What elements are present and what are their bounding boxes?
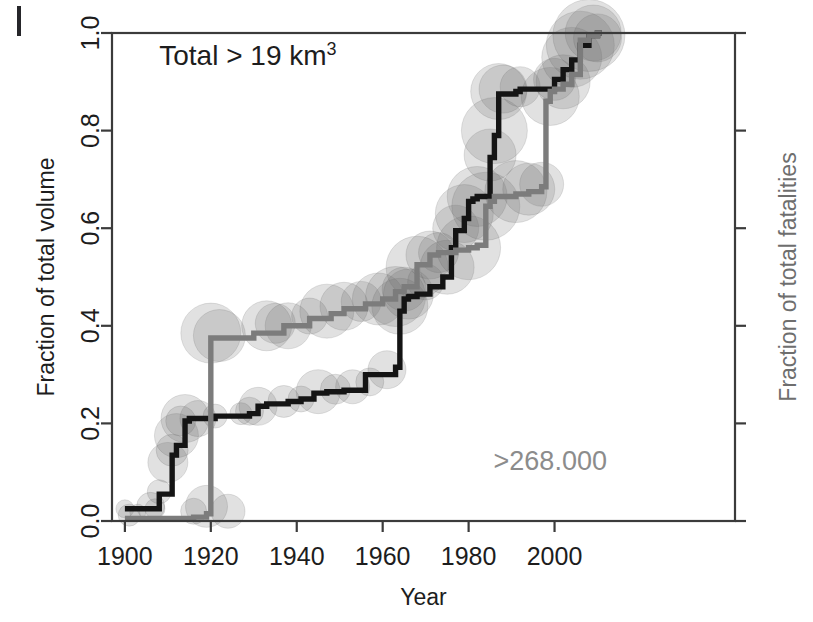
x-tick-label: 1900 [97,542,153,570]
total-volume-annotation-text: Total > 19 km [159,40,326,71]
y-axis-title-right: Fraction of total fatalities [775,152,801,401]
x-tick-label: 1940 [269,542,325,570]
y-tick-label: 0.6 [76,211,104,246]
x-tick-label: 1980 [441,542,497,570]
y-tick-label: 0.2 [76,406,104,441]
y-tick-label: 0.0 [76,504,104,539]
x-tick-label: 1960 [355,542,411,570]
scan-artifact-mark [17,6,21,36]
total-volume-annotation-superscript: 3 [327,39,337,59]
y-tick-label: 0.8 [76,113,104,148]
figure-container: 1900192019401960198020000.00.20.40.60.81… [0,0,813,622]
x-tick-label: 1920 [183,542,239,570]
event-bubble [211,494,245,528]
x-axis-title: Year [400,584,447,610]
y-tick-label: 0.4 [76,308,104,343]
x-tick-label: 2000 [527,542,583,570]
total-fatalities-annotation: >268.000 [494,446,607,476]
total-volume-annotation: Total > 19 km3 [159,39,336,71]
chart-canvas: 1900192019401960198020000.00.20.40.60.81… [0,0,813,622]
y-tick-label: 1.0 [76,16,104,51]
total-fatalities-annotation-text: >268.000 [494,446,607,476]
y-axis-title-left: Fraction of total volume [33,157,59,396]
